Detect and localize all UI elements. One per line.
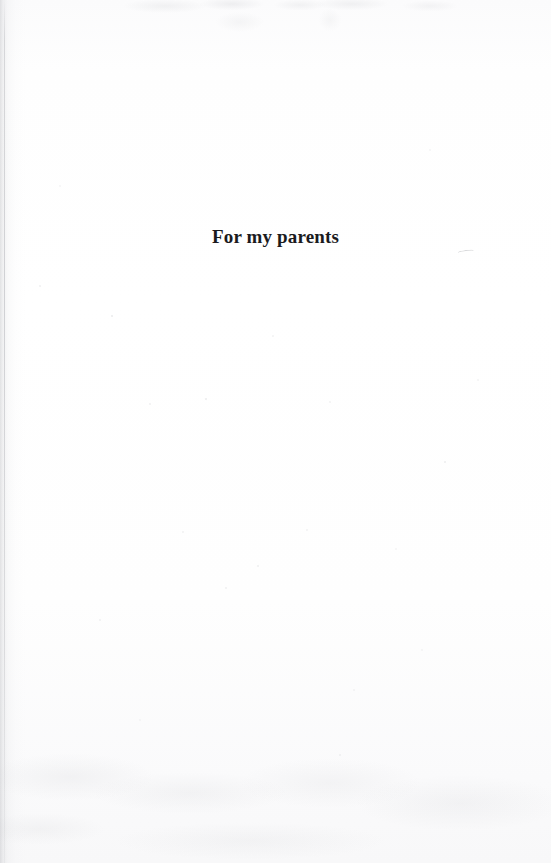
binding-gutter-line <box>4 0 5 863</box>
bottom-edge-paper-discoloration <box>0 733 551 863</box>
dedication-text: For my parents <box>0 226 551 248</box>
top-edge-scan-artifact <box>0 0 551 46</box>
dedication-page: For my parents <box>0 0 551 863</box>
paper-background <box>0 0 551 863</box>
paper-speckle-texture <box>0 0 551 863</box>
stray-ink-mark <box>458 249 474 256</box>
binding-gutter-shadow <box>0 0 26 863</box>
